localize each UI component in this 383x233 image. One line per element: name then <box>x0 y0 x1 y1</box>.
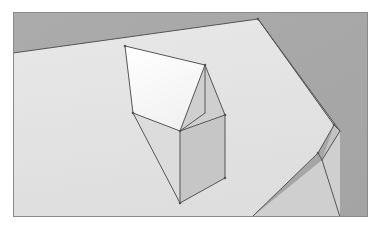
vertex-roof-ridge <box>204 64 207 67</box>
vertex-wall-right-bot <box>224 177 227 180</box>
vertex-roof-front <box>179 130 182 133</box>
scene-canvas <box>0 0 383 233</box>
vertex-ground-right <box>333 124 336 127</box>
vertex-ground-back <box>257 18 260 21</box>
render-content <box>13 12 368 217</box>
vertex-wall-right-top <box>224 114 227 117</box>
vertex-roof-back-left <box>124 45 127 48</box>
render-viewport <box>0 0 383 233</box>
vertex-ground-front <box>317 152 320 155</box>
vertex-wall-front-bot <box>179 202 182 205</box>
vertex-roof-eave-left <box>132 112 135 115</box>
